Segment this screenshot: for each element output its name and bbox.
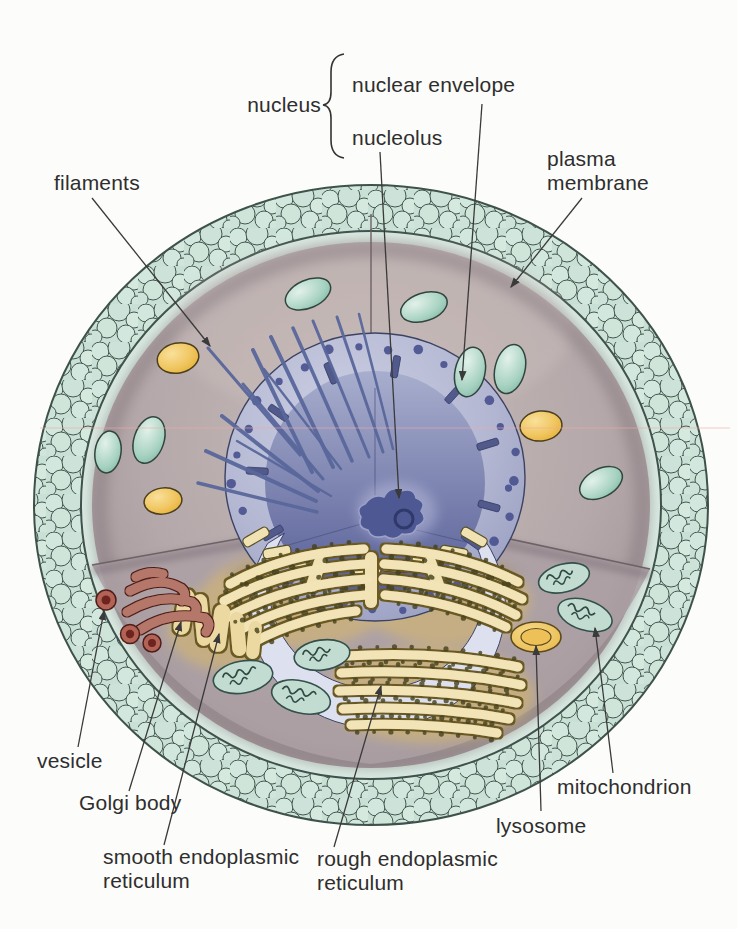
nucleus-brace	[323, 54, 344, 158]
label-filaments: filaments	[54, 171, 140, 194]
label-smooth-er-line1: smooth endoplasmic	[103, 845, 299, 868]
label-nucleus: nucleus	[247, 93, 321, 116]
label-mitochondrion: mitochondrion	[557, 775, 692, 798]
label-golgi-body: Golgi body	[79, 791, 182, 814]
label-rough-er-line2: reticulum	[317, 871, 404, 894]
label-rough-er-line1: rough endoplasmic	[317, 847, 498, 870]
animal-cell-cutaway-diagram: nucleus nuclear envelope nucleolus plasm…	[0, 0, 737, 929]
label-smooth-er-line2: reticulum	[103, 869, 190, 892]
label-nuclear-envelope: nuclear envelope	[352, 73, 515, 96]
label-plasma-membrane-line1: plasma	[547, 147, 616, 170]
nucleolus	[357, 482, 437, 542]
cell-diagram-page: nucleus nuclear envelope nucleolus plasm…	[0, 0, 737, 929]
label-vesicle: vesicle	[37, 749, 103, 772]
label-lysosome: lysosome	[496, 814, 586, 837]
label-nucleolus: nucleolus	[352, 126, 443, 149]
label-plasma-membrane-line2: membrane	[547, 171, 649, 194]
